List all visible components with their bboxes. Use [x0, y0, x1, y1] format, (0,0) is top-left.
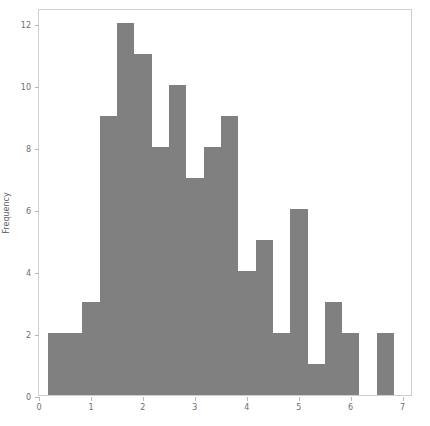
y-tick-mark	[35, 149, 39, 150]
x-tick-mark	[403, 397, 404, 401]
y-tick-mark	[35, 335, 39, 336]
histogram-bar	[117, 23, 134, 395]
x-tick-label: 7	[400, 403, 405, 412]
y-tick-label: 0	[26, 393, 31, 402]
histogram-bar	[273, 333, 290, 395]
histogram-bar	[342, 333, 360, 395]
x-tick-mark	[195, 397, 196, 401]
x-tick-label: 6	[348, 403, 353, 412]
y-tick-label: 12	[21, 21, 31, 30]
histogram-bar	[169, 85, 186, 395]
y-axis-label: Frequency	[2, 192, 11, 233]
bar-series	[39, 10, 411, 395]
x-tick-label: 4	[244, 403, 249, 412]
histogram-bar	[100, 116, 117, 395]
histogram-bar	[134, 54, 152, 395]
histogram-bar	[290, 209, 308, 395]
x-tick-label: 5	[296, 403, 301, 412]
y-tick-label: 10	[21, 83, 31, 92]
histogram-bar	[308, 364, 325, 395]
histogram-bar	[186, 178, 204, 395]
histogram-bar	[325, 302, 342, 395]
y-tick-mark	[35, 25, 39, 26]
histogram-bar	[256, 240, 273, 395]
histogram-bar	[377, 333, 394, 395]
histogram-bar	[82, 302, 100, 395]
x-tick-mark	[91, 397, 92, 401]
y-tick-label: 6	[26, 207, 31, 216]
x-tick-mark	[247, 397, 248, 401]
histogram-bar	[65, 333, 82, 395]
x-tick-label: 0	[36, 403, 41, 412]
x-tick-mark	[143, 397, 144, 401]
y-tick-label: 2	[26, 331, 31, 340]
x-tick-mark	[351, 397, 352, 401]
y-tick-mark	[35, 211, 39, 212]
y-tick-label: 4	[26, 269, 31, 278]
plot-area: 01234567 024681012	[38, 9, 412, 396]
x-tick-label: 2	[140, 403, 145, 412]
histogram-bar	[48, 333, 65, 395]
x-tick-label: 1	[88, 403, 93, 412]
histogram-bar	[152, 147, 169, 395]
histogram-bar	[221, 116, 238, 395]
y-tick-mark	[35, 397, 39, 398]
y-tick-label: 8	[26, 145, 31, 154]
x-tick-label: 3	[192, 403, 197, 412]
histogram-bar	[204, 147, 221, 395]
x-tick-mark	[39, 397, 40, 401]
x-tick-mark	[299, 397, 300, 401]
histogram-figure: Frequency 01234567 024681012	[0, 0, 430, 426]
y-tick-mark	[35, 87, 39, 88]
y-tick-mark	[35, 273, 39, 274]
histogram-bar	[238, 271, 256, 395]
